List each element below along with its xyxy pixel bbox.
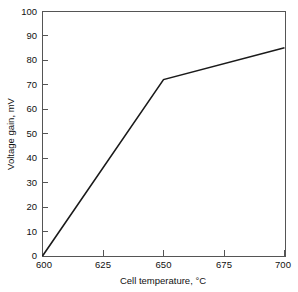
- y-tick-label-20: 20: [26, 201, 37, 212]
- x-tick-label-600: 600: [36, 259, 52, 270]
- x-axis-title-unit: °C: [195, 275, 206, 286]
- x-tick-label-700: 700: [275, 259, 291, 270]
- y-axis-title: Voltage gain, mV: [5, 97, 16, 169]
- chart-figure: 0 10 20 30 40 50 60 70 80 90 100 600 625…: [0, 0, 298, 292]
- x-tick-label-625: 625: [95, 259, 111, 270]
- y-tick-label-40: 40: [26, 152, 37, 163]
- y-tick-label-10: 10: [26, 226, 37, 237]
- svg-text:Cell temperature, °C: Cell temperature, °C: [120, 275, 206, 286]
- y-tick-label-30: 30: [26, 177, 37, 188]
- y-tick-label-60: 60: [26, 103, 37, 114]
- x-axis-title-text: Cell temperature,: [120, 275, 196, 286]
- y-tick-label-90: 90: [26, 30, 37, 41]
- x-tick-label-650: 650: [156, 259, 172, 270]
- y-tick-label-70: 70: [26, 79, 37, 90]
- y-tick-label-100: 100: [21, 6, 37, 17]
- x-tick-label-675: 675: [216, 259, 232, 270]
- y-tick-label-50: 50: [26, 128, 37, 139]
- x-axis-title: Cell temperature, °C: [120, 275, 206, 286]
- y-axis-title-text: Voltage gain, mV: [5, 97, 16, 169]
- line-chart: 0 10 20 30 40 50 60 70 80 90 100 600 625…: [0, 0, 298, 292]
- chart-background: [0, 0, 298, 292]
- y-tick-label-80: 80: [26, 54, 37, 65]
